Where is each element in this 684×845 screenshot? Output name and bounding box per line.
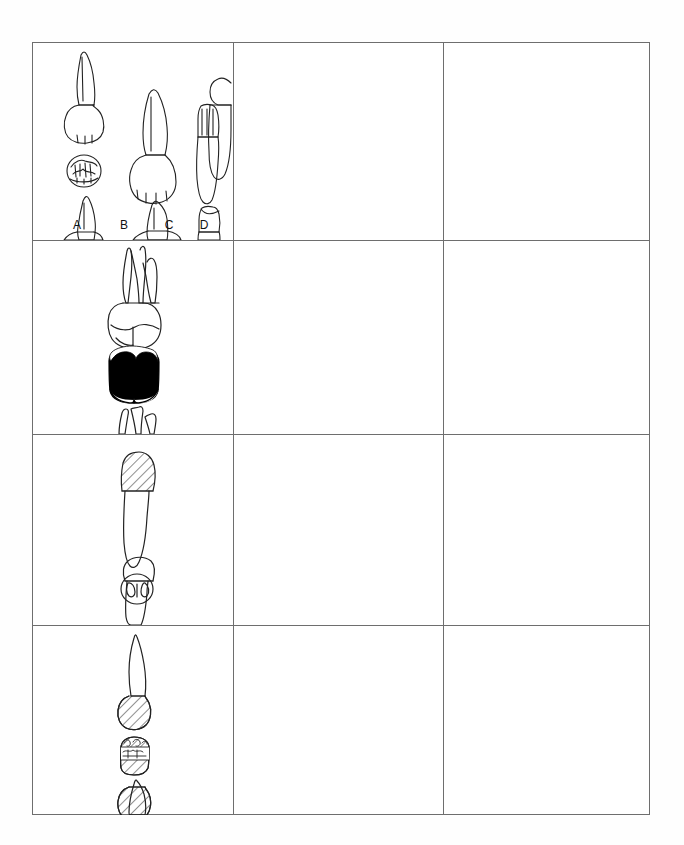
- molar-lingual-view: [119, 407, 156, 434]
- cell-r3c3: [444, 435, 649, 625]
- figure-table: A B C D A B C D: [32, 42, 650, 815]
- cell-r3c1: [33, 435, 233, 625]
- figure-page: A B C D A B C D: [0, 0, 684, 845]
- tooth-a-labial: [64, 52, 104, 144]
- molar-occlusal-view-filled: [109, 346, 159, 403]
- cell-r4c3: [444, 626, 649, 815]
- cell-r2c1: [33, 241, 233, 434]
- cell-r2c2: [234, 241, 443, 434]
- label-d: D: [200, 218, 209, 232]
- tooth-a-incisal: [67, 155, 101, 187]
- label-c: C: [165, 218, 174, 232]
- cell-r2c3: [444, 241, 649, 434]
- anterior-tooth-1: [118, 635, 151, 730]
- cell-r4c1: [33, 626, 233, 815]
- tooth-group-anterior-restored: [33, 626, 233, 815]
- cell-r3c2: [234, 435, 443, 625]
- tooth-c-labial: [197, 104, 219, 203]
- premolar-hatched-crown: [121, 452, 155, 567]
- cell-r1c3: [444, 43, 649, 240]
- label-a: A: [73, 218, 81, 232]
- tooth-b-labial: [130, 90, 176, 204]
- anterior-tooth-2: [129, 780, 146, 815]
- tooth-group-anterior-incisors: A B C D: [33, 43, 233, 240]
- tooth-group-maxillary-molar: [33, 241, 233, 434]
- cell-r1c2: [234, 43, 443, 240]
- molar-buccal-view: [108, 246, 161, 349]
- cell-r1c1: A B C D A B C D: [33, 43, 233, 240]
- tooth-b-labial-lower: [133, 201, 181, 240]
- anterior-incisal-view: [121, 737, 149, 775]
- tooth-group-premolar: [33, 435, 233, 625]
- label-b: B: [120, 218, 128, 232]
- tooth-a-labial-lower: [64, 197, 103, 240]
- cell-r4c2: [234, 626, 443, 815]
- premolar-occlusal-view: [121, 574, 153, 604]
